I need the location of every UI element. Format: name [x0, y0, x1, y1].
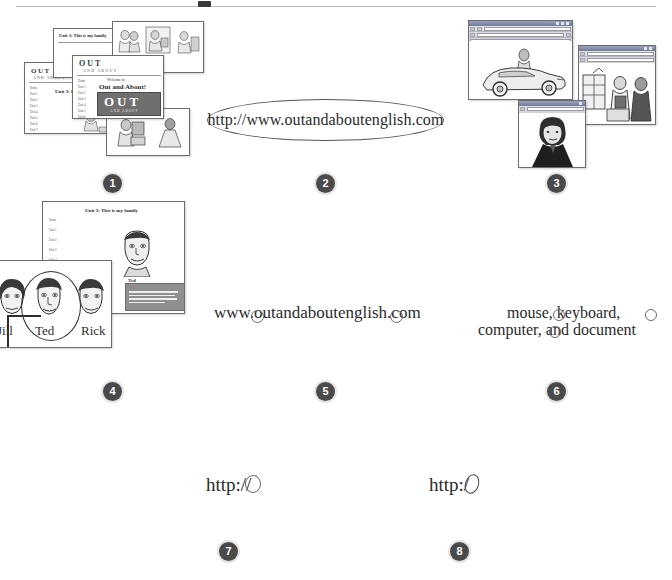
badge-item-3: 3	[547, 174, 566, 193]
slide-logo-andabout: AND ABOUT	[83, 68, 117, 73]
nav-item[interactable]: Unit 7	[30, 128, 38, 132]
back-icon[interactable]	[470, 27, 475, 31]
browser-content-market	[579, 63, 655, 124]
home-icon[interactable]	[470, 33, 475, 37]
close-icon[interactable]	[649, 47, 652, 50]
nav-item[interactable]: Home	[30, 86, 38, 90]
thumb-label	[76, 46, 78, 50]
family-tree-connector-vertical	[7, 315, 9, 348]
character-name-rick: Rick	[81, 323, 106, 339]
close-icon[interactable]	[566, 22, 569, 25]
close-icon[interactable]	[579, 102, 582, 105]
slide-divider	[77, 75, 161, 76]
slide-title-out-logo: OUT	[31, 67, 51, 75]
callout-text-lines	[129, 286, 181, 308]
portrait-photo	[519, 113, 585, 167]
nav-item[interactable]: Unit 2	[78, 91, 86, 95]
slide-nav-list[interactable]: Home Unit 1 Unit 2 Unit 3 Unit 4 Unit 5 …	[78, 79, 86, 119]
badge-item-6: 6	[547, 382, 566, 401]
search-input[interactable]	[477, 33, 564, 37]
banner-logo-text: OUT	[104, 94, 141, 110]
welcome-banner: OUT AND ABOUT	[97, 92, 161, 116]
nav-item[interactable]: Unit 1	[78, 85, 86, 89]
welcome-eyebrow: Welcome to	[107, 78, 125, 82]
nav-item[interactable]: Unit 6	[30, 122, 38, 126]
browser-window-car[interactable]	[468, 20, 573, 100]
address-bar-input[interactable]	[484, 27, 571, 31]
nav-item[interactable]: Unit 3	[30, 104, 38, 108]
browser-chrome	[469, 21, 572, 42]
welcome-heading: Out and About!	[99, 83, 146, 91]
badge-item-2: 2	[316, 174, 335, 193]
nav-item[interactable]: Home	[78, 79, 86, 83]
slide-welcome-out-and-about[interactable]: OUT AND ABOUT Home Unit 1 Unit 2 Unit 3 …	[72, 55, 164, 119]
browser-titlebar[interactable]	[519, 101, 585, 106]
figure-sketch-market	[175, 28, 201, 54]
url-ellipse-callout[interactable]: http://www.outandaboutenglish.com	[207, 99, 444, 141]
url-text: http://www.outandaboutenglish.com	[207, 99, 444, 141]
family-tree-connector	[7, 315, 41, 317]
figure-sketch-gift	[115, 116, 147, 148]
slide-thumb-labels	[60, 46, 93, 50]
badge-item-7: 7	[219, 542, 238, 561]
browser-window-portrait[interactable]	[518, 100, 586, 168]
page-canvas: OUT AND ABOUT Home Unit 1 Unit 2 Unit 3 …	[0, 0, 672, 580]
browser-titlebar[interactable]	[469, 21, 572, 26]
nav-item[interactable]: Unit 2	[49, 238, 57, 242]
nav-item[interactable]: Unit 3	[78, 97, 86, 101]
slide-heading-unit3-family: Unit 3: This is my family	[59, 33, 107, 38]
nav-item[interactable]: Unit 2	[30, 98, 38, 102]
browser-window-market[interactable]	[578, 45, 656, 125]
maximize-icon[interactable]	[561, 22, 564, 25]
nav-item[interactable]: Unit 5	[30, 116, 38, 120]
protocol-text-7: http://	[206, 474, 251, 496]
search-input[interactable]	[587, 58, 654, 62]
circled-comma-icon-2	[645, 309, 657, 321]
back-icon[interactable]	[520, 107, 525, 111]
nav-item[interactable]: Unit 1	[49, 228, 57, 232]
thumb-label	[60, 46, 62, 50]
panel-character-heads[interactable]: Jill Ted	[0, 260, 112, 348]
address-bar-input[interactable]	[587, 52, 654, 56]
annotated-url-text: www.outandaboutenglish.com	[214, 303, 421, 323]
header-divider	[16, 6, 656, 7]
nav-item[interactable]: Unit 5	[78, 109, 86, 113]
character-name-ted: Ted	[35, 323, 54, 339]
badge-item-8: 8	[450, 542, 469, 561]
badge-item-5: 5	[316, 382, 335, 401]
minimize-icon[interactable]	[556, 22, 559, 25]
figure-sketch-couple	[117, 27, 143, 53]
badge-item-4: 4	[103, 382, 122, 401]
banner-sublogo-text: AND ABOUT	[110, 109, 139, 113]
nav-item[interactable]: Unit 3	[49, 248, 57, 252]
browser-titlebar[interactable]	[579, 46, 655, 51]
figure-sketch-reading	[145, 26, 171, 54]
figure-character-head-large	[116, 227, 158, 277]
browser-content-portrait	[519, 113, 585, 167]
go-icon[interactable]	[566, 33, 571, 37]
browser-search-row[interactable]	[579, 57, 655, 62]
header-mark	[198, 1, 211, 7]
nav-item[interactable]: Unit 6	[78, 115, 86, 119]
badge-item-1: 1	[103, 174, 122, 193]
figure-sketch-woman-dress	[157, 117, 183, 148]
nav-item[interactable]: Unit 4	[78, 103, 86, 107]
browser-chrome	[579, 46, 655, 64]
annotated-list-line-2: computer, and document	[478, 320, 636, 339]
protocol-text-8: http:/	[429, 474, 469, 496]
thumb-label	[91, 46, 93, 50]
browser-toolbar[interactable]	[519, 106, 585, 111]
nav-item[interactable]: Home	[49, 218, 57, 222]
slide-heading-unit3-family: Unit 3: This is my family	[85, 208, 138, 213]
address-bar-input[interactable]	[527, 107, 584, 111]
forward-icon[interactable]	[477, 27, 482, 31]
back-icon[interactable]	[580, 52, 585, 56]
character-description-callout	[125, 283, 185, 311]
nav-item[interactable]: Unit 4	[30, 110, 38, 114]
maximize-icon[interactable]	[644, 47, 647, 50]
home-icon[interactable]	[580, 58, 585, 62]
market-scene	[579, 63, 655, 124]
nav-item[interactable]: Unit 1	[30, 92, 38, 96]
slide-nav-list[interactable]: Home Unit 1 Unit 2 Unit 3 Unit 4 Unit 5 …	[30, 86, 38, 132]
slide-logo-out: OUT	[79, 59, 102, 68]
